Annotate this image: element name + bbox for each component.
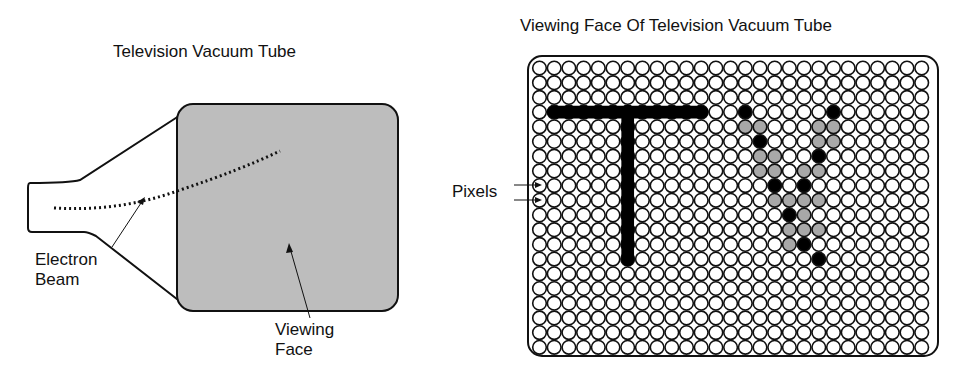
pixel-off (650, 296, 664, 310)
pixel-off (812, 267, 826, 281)
pixel-off (841, 91, 855, 105)
pixel-off (915, 238, 929, 252)
pixel-off (606, 135, 620, 149)
pixel-off (709, 252, 723, 266)
pixel-off (886, 135, 900, 149)
pixel-off (724, 149, 738, 163)
pixel-off (739, 135, 753, 149)
pixel-off (841, 223, 855, 237)
pixel-off (739, 282, 753, 296)
pixel-off (753, 91, 767, 105)
pixel-off (812, 326, 826, 340)
pixel-off (812, 208, 826, 222)
pixel-off (812, 105, 826, 119)
pixel-off (636, 135, 650, 149)
pixel-off (547, 149, 561, 163)
pixel-off (871, 164, 885, 178)
pixel-off (562, 208, 576, 222)
pixel-off (665, 311, 679, 325)
pixel-off (841, 105, 855, 119)
pixel-off (562, 164, 576, 178)
pixel-off (841, 164, 855, 178)
pixel-off (592, 194, 606, 208)
pixel-off (694, 61, 708, 75)
pixel-off (665, 149, 679, 163)
pixel-off (871, 267, 885, 281)
pixel-off (841, 61, 855, 75)
pixel-off (900, 61, 914, 75)
pixel-off (636, 76, 650, 90)
electron-beam-label: Electron Beam (35, 250, 97, 290)
pixel-off (606, 194, 620, 208)
pixel-off (827, 223, 841, 237)
pixel-off (783, 149, 797, 163)
pixel-off (680, 179, 694, 193)
pixel-off (871, 296, 885, 310)
pixel-off (856, 311, 870, 325)
pixel-off (547, 91, 561, 105)
pixel-off (886, 194, 900, 208)
pixel-off (724, 282, 738, 296)
pixel-off (577, 267, 591, 281)
pixel-off (592, 149, 606, 163)
pixel-off (841, 282, 855, 296)
pixel-off (827, 341, 841, 355)
pixel-off (797, 105, 811, 119)
pixel-off (797, 252, 811, 266)
pixel-on (812, 149, 826, 163)
pixel-off (739, 267, 753, 281)
pixel-off (856, 120, 870, 134)
pixel-off (797, 341, 811, 355)
pixel-off (724, 326, 738, 340)
pixel-off (856, 296, 870, 310)
pixel-off (871, 223, 885, 237)
pixel-partial (753, 149, 767, 163)
pixel-off (915, 267, 929, 281)
pixel-off (562, 311, 576, 325)
pixel-off (562, 91, 576, 105)
pixel-off (709, 76, 723, 90)
pixel-off (709, 91, 723, 105)
pixel-off (650, 223, 664, 237)
pixel-off (724, 223, 738, 237)
pixel-off (900, 135, 914, 149)
pixel-off (547, 194, 561, 208)
pixel-off (577, 91, 591, 105)
pixel-partial (812, 223, 826, 237)
pixel-off (915, 282, 929, 296)
pixel-off (812, 296, 826, 310)
pixel-off (650, 164, 664, 178)
pixel-off (592, 135, 606, 149)
pixel-off (886, 105, 900, 119)
pixel-off (768, 326, 782, 340)
pixel-off (768, 120, 782, 134)
pixel-off (577, 208, 591, 222)
pixel-off (871, 311, 885, 325)
pixel-off (900, 296, 914, 310)
pixel-off (665, 341, 679, 355)
pixel-partial (827, 120, 841, 134)
pixel-partial (768, 164, 782, 178)
pixel-off (533, 326, 547, 340)
pixel-off (562, 326, 576, 340)
pixel-off (915, 61, 929, 75)
pixel-off (724, 91, 738, 105)
pixel-partial (783, 223, 797, 237)
pixel-off (900, 149, 914, 163)
pixel-partial (768, 194, 782, 208)
pixels-label: Pixels (452, 182, 497, 202)
pixel-off (753, 238, 767, 252)
pixel-off (900, 91, 914, 105)
pixel-off (533, 105, 547, 119)
pixel-off (783, 164, 797, 178)
pixel-off (636, 149, 650, 163)
pixel-on (783, 208, 797, 222)
pixel-off (665, 252, 679, 266)
pixel-off (886, 179, 900, 193)
pixel-off (753, 179, 767, 193)
pixel-off (841, 326, 855, 340)
pixel-off (709, 194, 723, 208)
pixel-off (797, 135, 811, 149)
pixel-off (562, 120, 576, 134)
pixel-off (577, 164, 591, 178)
